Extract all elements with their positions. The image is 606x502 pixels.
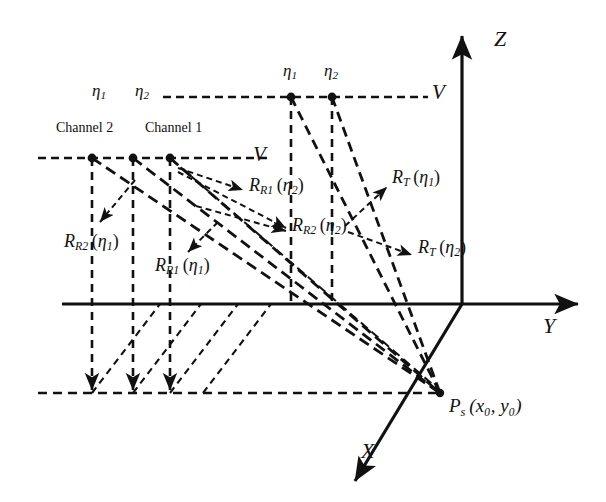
eta-symbol: η bbox=[326, 215, 335, 235]
R-symbol: R bbox=[249, 175, 260, 195]
ground-proj-1 bbox=[92, 304, 160, 393]
label-RR1-eta2: RR1 (η2) bbox=[249, 176, 304, 197]
R-subscript: T bbox=[403, 175, 410, 189]
eta-subscript: 2 bbox=[143, 89, 149, 101]
R-subscript: R2 bbox=[75, 239, 88, 253]
R-subscript: R2 bbox=[303, 223, 316, 237]
label-RT-eta1: RT (η1) bbox=[392, 168, 440, 189]
R-symbol: R bbox=[392, 167, 403, 187]
y-axis-label: Y bbox=[543, 315, 555, 337]
range-RR1-eta2 bbox=[170, 158, 438, 389]
R-subscript: T bbox=[429, 245, 436, 259]
R-symbol: R bbox=[155, 255, 166, 275]
point-rx-channel2 bbox=[88, 154, 97, 163]
transmitter-droppers bbox=[291, 97, 332, 304]
eta-symbol: η bbox=[283, 175, 292, 195]
point-rx-third bbox=[166, 154, 175, 163]
channel-1-label: Channel 1 bbox=[145, 121, 202, 135]
R-symbol: R bbox=[292, 215, 303, 235]
point-rx-channel1 bbox=[129, 154, 138, 163]
velocity-label-receiver: V bbox=[253, 144, 266, 165]
channel-2-label: Channel 2 bbox=[56, 121, 113, 135]
leader-RR1-eta2 bbox=[178, 168, 243, 190]
velocity-label-transmitter: V bbox=[432, 82, 445, 103]
eta-symbol: η bbox=[98, 231, 107, 251]
eta-symbol: η bbox=[189, 255, 198, 275]
eta-subscript: 2 bbox=[332, 69, 338, 81]
leader-RT-eta2 bbox=[348, 232, 412, 255]
point-tx-eta2 bbox=[328, 93, 337, 102]
range-RR2-eta2 bbox=[170, 158, 440, 393]
eta1-label-transmitter: η1 bbox=[283, 62, 297, 81]
point-target-ps bbox=[436, 389, 444, 397]
leader-RR2-eta1 bbox=[100, 180, 135, 222]
label-RT-eta2: RT (η2) bbox=[418, 238, 466, 259]
R-subscript: R1 bbox=[166, 263, 179, 277]
ground-projection-lines bbox=[92, 304, 271, 393]
eta-subscript: 1 bbox=[291, 69, 297, 81]
eta2-label-receiver: η2 bbox=[135, 82, 149, 101]
eta-symbol: η bbox=[419, 167, 428, 187]
eta-subscript: 1 bbox=[100, 89, 106, 101]
label-target-ps: Ps (x₀, y₀) bbox=[449, 396, 522, 418]
label-RR2-eta1: RR2 (η1) bbox=[64, 232, 119, 253]
eta1-label-receiver: η1 bbox=[92, 82, 106, 101]
R-symbol: R bbox=[64, 231, 75, 251]
label-RR2-eta2: RR2 (η2) bbox=[292, 216, 347, 237]
figure-canvas: Z Y X η1 η2 η1 η2 Channel 2 Channel 1 V … bbox=[0, 0, 606, 502]
P-symbol: P bbox=[449, 395, 461, 416]
x-axis-label: X bbox=[361, 440, 374, 462]
R-subscript: R1 bbox=[260, 183, 273, 197]
eta-symbol: η bbox=[445, 237, 454, 257]
label-RR1-eta1: RR1 (η1) bbox=[155, 256, 210, 277]
point-tx-eta1 bbox=[287, 93, 296, 102]
target-coordinates: (x₀, y₀) bbox=[469, 395, 521, 416]
R-symbol: R bbox=[418, 237, 429, 257]
ground-proj-4 bbox=[203, 304, 271, 393]
z-axis-label: Z bbox=[494, 28, 506, 50]
ground-proj-2 bbox=[133, 304, 201, 393]
eta2-label-transmitter: η2 bbox=[324, 62, 338, 81]
ground-proj-3 bbox=[170, 304, 238, 393]
